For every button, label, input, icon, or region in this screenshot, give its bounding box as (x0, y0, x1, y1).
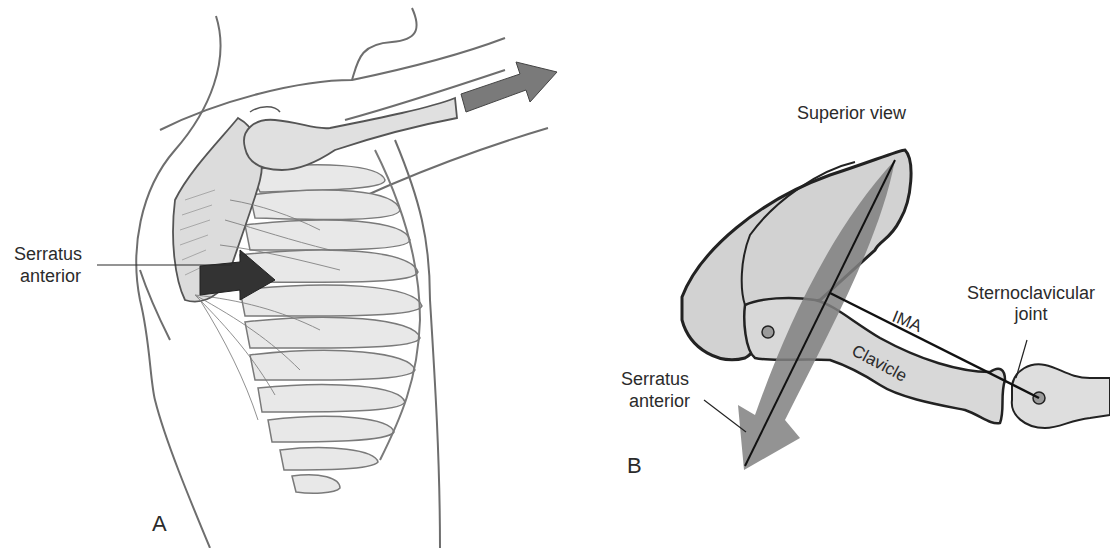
anatomy-figure: Serratus anterior A Superior view Sterno… (0, 0, 1110, 548)
panel-a-serratus-label-line2: anterior (20, 266, 81, 287)
sternoclavicular-label-line1: Sternoclavicular (956, 283, 1106, 304)
figure-artwork (0, 0, 1110, 548)
panel-b-serratus-label-line2: anterior (629, 391, 690, 412)
sternoclavicular-label-line2: joint (956, 304, 1106, 325)
panel-a-serratus-label-line1: Serratus (14, 244, 82, 265)
panel-b-letter: B (627, 453, 642, 479)
panel-b-serratus-label-line1: Serratus (621, 369, 689, 390)
panel-a-letter: A (152, 511, 167, 537)
panel-b-title: Superior view (797, 103, 906, 124)
panel-a-illustration (97, 8, 557, 548)
